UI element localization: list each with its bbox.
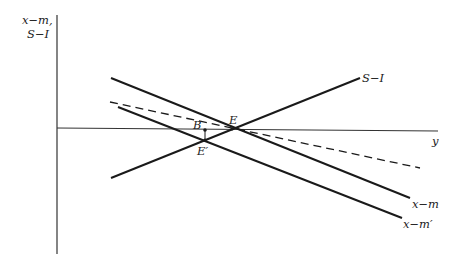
point-e-prime-marker [203,138,206,141]
x-minus-m-prime-curve [118,107,402,218]
diagram-canvas: x−m, S−I y S−I x−m x−m′ E E′ B [0,0,462,267]
y-axis-label-line2: S−I [27,27,50,41]
point-e-prime-label: E′ [196,144,208,158]
y-axis-label-line1: x−m, [22,13,53,27]
point-b-label: B [192,118,201,132]
x-minus-m-prime-label: x−m′ [403,217,433,231]
x-minus-m-curve [111,78,410,198]
dashed-curve [110,102,420,168]
horizontal-axis [57,128,438,131]
x-axis-label: y [431,134,439,148]
point-e-label: E [228,113,238,127]
s-minus-i-label: S−I [362,71,385,85]
point-b-marker [203,128,207,132]
x-minus-m-label: x−m [412,197,439,211]
point-e-marker [230,127,233,130]
